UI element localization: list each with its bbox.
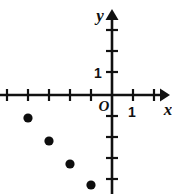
data-point — [86, 180, 95, 189]
scatter-plot-canvas: y x O 1 1 — [0, 0, 172, 194]
x-axis-label: x — [163, 100, 172, 119]
origin-label: O — [99, 98, 110, 114]
x-unit-tick-label: 1 — [128, 104, 136, 120]
data-point — [44, 136, 53, 145]
y-axis-label: y — [94, 6, 104, 25]
data-point — [23, 113, 32, 122]
y-unit-tick-label: 1 — [94, 65, 102, 81]
data-point — [65, 159, 74, 168]
axis-text-group: y x O 1 1 — [94, 6, 172, 120]
x-axis-group — [0, 89, 170, 102]
y-axis-arrow-icon — [106, 9, 119, 20]
data-points-group — [23, 113, 95, 189]
coordinate-plane-figure: y x O 1 1 — [0, 0, 172, 194]
